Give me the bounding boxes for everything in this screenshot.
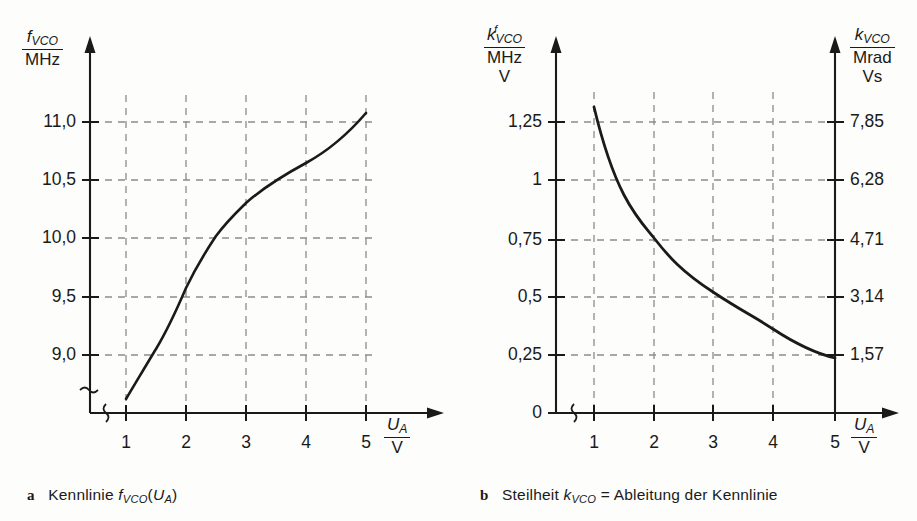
- y-tick-label-a-2: 10,0: [0, 227, 76, 248]
- x-tick-label-a-1: 2: [171, 432, 201, 453]
- x-tick-label-a-0: 1: [111, 432, 141, 453]
- y-axis-left-sym-sup-b: f: [494, 23, 497, 35]
- x-tick-label-b-3: 4: [758, 432, 788, 453]
- y-axis-right-sym-sub-b: VCO: [863, 32, 890, 46]
- y-axis-right-label-b: kVCO Mrad Vs: [850, 26, 895, 86]
- x-axis-sym-b: U: [854, 415, 866, 434]
- caption-b-text-2: = Ableitung der Kennlinie: [596, 486, 777, 503]
- x-tick-label-a-2: 3: [231, 432, 261, 453]
- axes-b: [548, 36, 899, 422]
- y-axis-left-unit1-b: MHz: [484, 47, 525, 67]
- x-tick-label-a-4: 5: [351, 432, 381, 453]
- figure-root: fVCO MHz UA V 11,0 10,5 10,0 9,5 9,0 1 2…: [0, 0, 917, 521]
- grid-lines-b: [558, 92, 838, 408]
- x-tick-label-b-0: 1: [579, 432, 609, 453]
- y-axis-label-a: fVCO MHz: [22, 28, 63, 69]
- x-axis-arrow-a: [427, 408, 444, 419]
- y-tick-label-left-b-2: 0,75: [460, 229, 542, 250]
- x-tick-label-b-4: 5: [820, 432, 850, 453]
- grid-lines-a: [92, 95, 372, 408]
- axes-a: [80, 36, 444, 422]
- caption-a: a Kennlinie fVCO(UA): [27, 486, 177, 505]
- y-tick-label-right-b-0: 7,85: [850, 111, 884, 132]
- curve-b: [594, 107, 835, 358]
- y-axis-left-label-b: kVCOf MHz V: [484, 26, 525, 86]
- y-tick-label-a-4: 9,0: [0, 344, 76, 365]
- caption-a-prefix: a: [27, 487, 35, 503]
- y-tick-label-a-3: 9,5: [0, 286, 76, 307]
- y-axis-right-unit1-b: Mrad: [850, 47, 895, 67]
- x-axis-label-a: UA V: [384, 416, 410, 457]
- y-axis-unit-a: MHz: [22, 49, 63, 69]
- y-tick-label-a-0: 11,0: [0, 111, 76, 132]
- x-tick-label-a-3: 4: [291, 432, 321, 453]
- chart-panel-a: fVCO MHz UA V 11,0 10,5 10,0 9,5 9,0 1 2…: [0, 0, 460, 521]
- y-tick-label-left-b-0: 1,25: [460, 111, 542, 132]
- y-axis-sym-sub-a: VCO: [32, 34, 59, 48]
- caption-a-text: Kennlinie: [48, 486, 118, 503]
- caption-b-prefix: b: [480, 487, 489, 503]
- y-axis-left-unit2-b: V: [484, 67, 525, 86]
- y-tick-label-right-b-4: 1,57: [850, 344, 884, 365]
- y-axis-left-sym-sub-b: VCO: [496, 32, 523, 46]
- x-tick-label-b-2: 3: [698, 432, 728, 453]
- x-axis-unit-a: V: [384, 437, 410, 457]
- y-tick-label-left-b-3: 0,5: [460, 286, 542, 307]
- y-tick-label-a-1: 10,5: [0, 169, 76, 190]
- chart-panel-b: kVCOf MHz V kVCO Mrad Vs UA V 1,25 1 0,7…: [460, 0, 917, 521]
- x-axis-sym-sub-a: A: [399, 422, 407, 436]
- x-axis-label-b: UA V: [851, 416, 877, 457]
- caption-a-fn-sub: VCO: [123, 493, 148, 505]
- caption-b-sym-sub: VCO: [571, 493, 596, 505]
- y-tick-label-left-b-1: 1: [460, 169, 542, 190]
- y-axis-left-arrow-b: [551, 36, 562, 53]
- y-tick-label-left-b-5: 0: [460, 402, 542, 423]
- x-axis-sym-a: U: [387, 415, 399, 434]
- y-axis-right-unit2-b: Vs: [850, 67, 895, 86]
- x-axis-sym-sub-b: A: [866, 422, 874, 436]
- caption-a-arg-sub: A: [164, 493, 172, 505]
- x-tick-marks-b: [594, 401, 835, 421]
- caption-a-arg: U: [153, 486, 164, 503]
- y-tick-label-right-b-2: 4,71: [850, 229, 884, 250]
- y-axis-right-arrow-b: [830, 36, 841, 53]
- y-tick-label-right-b-3: 3,14: [850, 286, 884, 307]
- caption-a-paren-close: ): [172, 486, 177, 503]
- y-tick-label-right-b-1: 6,28: [850, 169, 884, 190]
- caption-b-text-1: Steilheit: [502, 486, 563, 503]
- x-tick-label-b-1: 2: [639, 432, 669, 453]
- caption-b: b Steilheit kVCO = Ableitung der Kennlin…: [480, 486, 778, 505]
- x-axis-arrow-b: [882, 408, 899, 419]
- y-tick-label-left-b-4: 0,25: [460, 344, 542, 365]
- y-axis-arrow-a: [85, 36, 96, 53]
- x-axis-unit-b: V: [851, 437, 877, 457]
